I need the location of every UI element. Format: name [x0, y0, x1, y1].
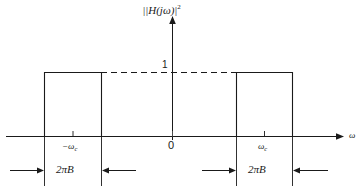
x-axis: [6, 133, 344, 140]
y-axis: [169, 16, 176, 140]
right-passband-rect: [237, 73, 293, 137]
right-bandwidth-label: 2πB: [248, 164, 266, 175]
plot-title-exponent: 2: [177, 3, 181, 11]
x-axis-label-omega: ω: [349, 131, 355, 140]
left-bandwidth-label: 2πB: [56, 164, 74, 175]
left-cutoff-frequency-label: −ωc: [62, 142, 77, 151]
right-cutoff-frequency-label: ωc: [258, 142, 267, 151]
left-cutoff-symbol: −ω: [62, 141, 74, 151]
figure-container: ||H(jω)|2 1 0 ω −ωc ωc 2πB 2πB: [0, 0, 364, 192]
plot-title-magnitude-squared: ||H(jω)|2: [143, 4, 181, 16]
right-cutoff-subscript: c: [264, 145, 267, 152]
bandpass-filter-plot: [0, 0, 364, 192]
left-cutoff-subscript: c: [74, 145, 77, 152]
plot-title-text: |H(jω)|: [145, 4, 177, 16]
origin-label-zero: 0: [168, 140, 174, 151]
left-passband-rect: [45, 73, 102, 137]
y-axis-tick-label-one: 1: [162, 60, 168, 70]
